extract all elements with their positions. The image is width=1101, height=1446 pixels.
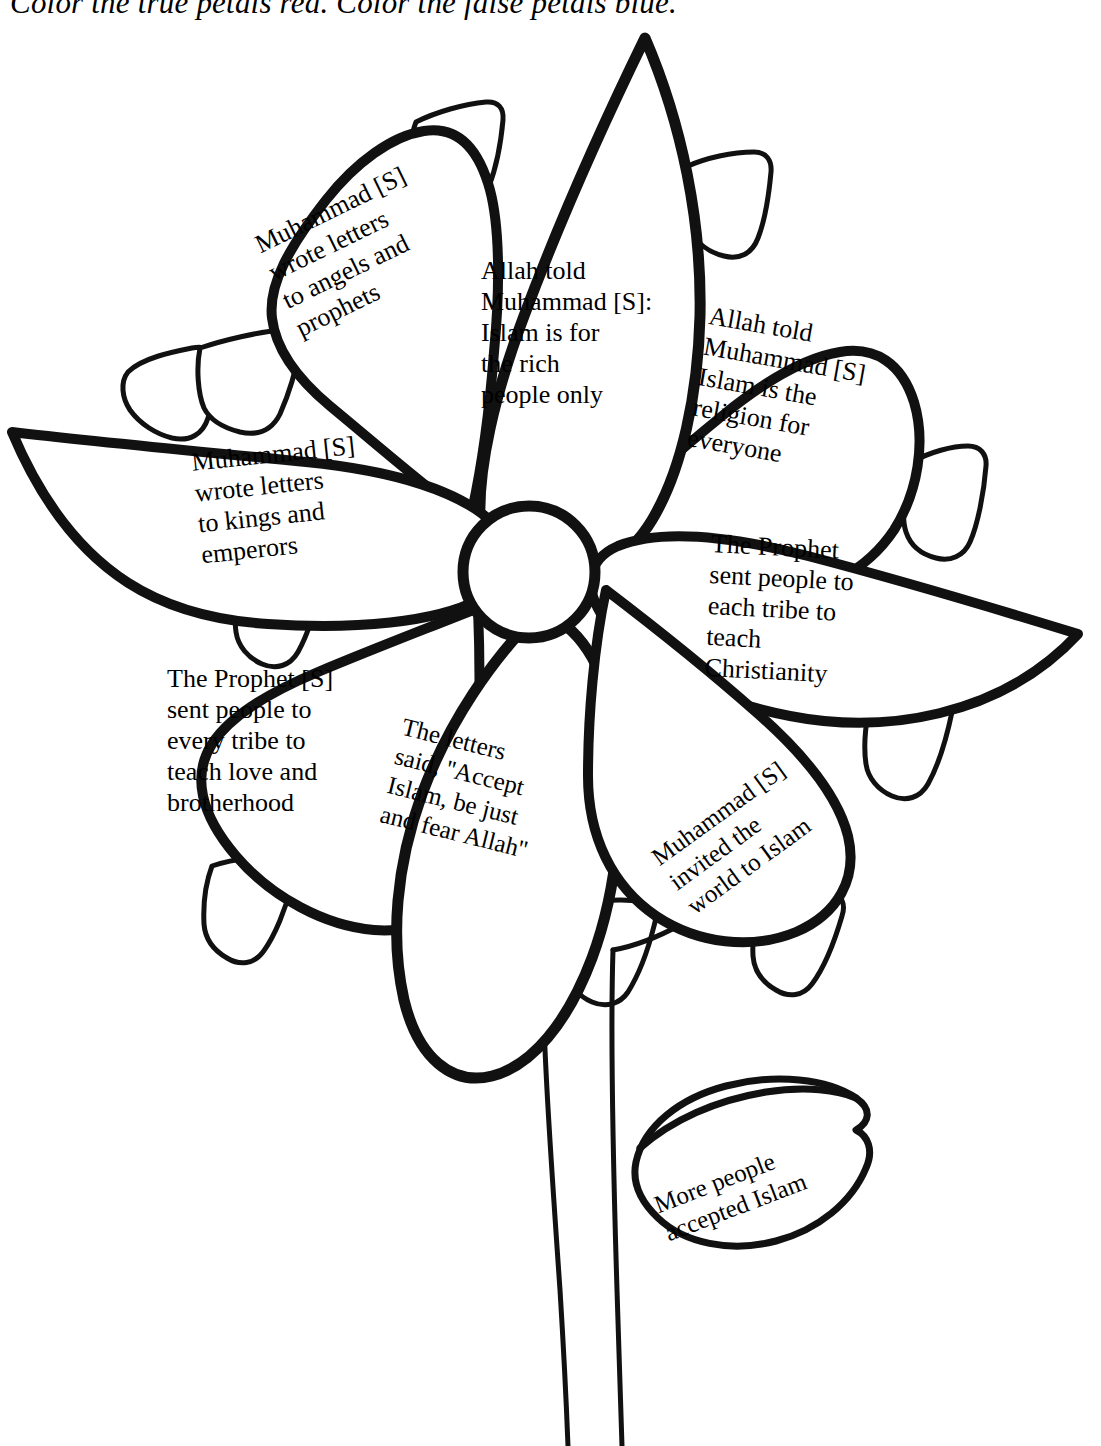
worksheet-page: Color the true petals red. Color the fal… [0, 0, 1101, 1446]
petal-top-shape[interactable] [480, 38, 700, 582]
flower-diagram [0, 0, 1101, 1446]
stem-right-edge [612, 950, 622, 1446]
leaf-outline [635, 1079, 870, 1246]
flower-center-circle[interactable] [463, 506, 595, 638]
